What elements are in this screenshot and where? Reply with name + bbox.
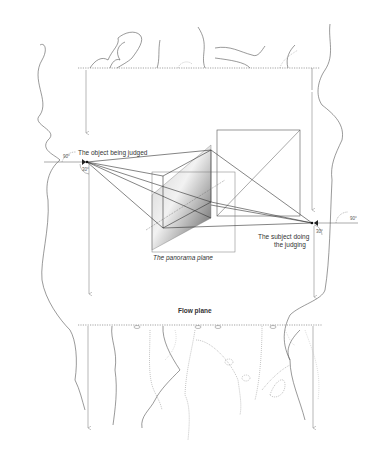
top-wavy-lines xyxy=(90,27,295,68)
angle-left-top: 90° xyxy=(63,153,70,161)
bottom-wavy-lines xyxy=(75,326,305,428)
panorama-label: The panorama plane xyxy=(153,254,213,262)
angle-right-bottom: 30° xyxy=(316,228,323,236)
panorama-plane xyxy=(152,145,211,250)
top-wavy-dotted xyxy=(178,50,298,68)
subject-label-line1: The subject doing xyxy=(258,233,309,241)
left-contour xyxy=(38,44,76,380)
object-point xyxy=(86,161,89,164)
angle-left-bottom: 30° xyxy=(82,166,89,174)
bottom-dotted-wavy xyxy=(150,326,291,440)
flow-plane-label: Flow plane xyxy=(178,307,212,315)
right-contour xyxy=(284,24,342,360)
vertical-arrows xyxy=(86,70,314,428)
diagram-canvas xyxy=(0,0,385,476)
subject-point xyxy=(311,222,314,225)
angle-right-top: 90° xyxy=(350,215,357,223)
subject-label-line2: the judging xyxy=(274,241,306,249)
object-label: The object being judged xyxy=(78,149,147,157)
